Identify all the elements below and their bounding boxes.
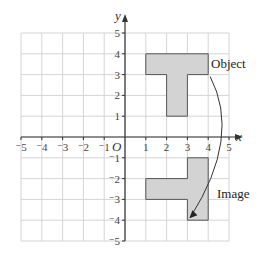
axes xyxy=(21,14,243,241)
x-tick-label: 5 xyxy=(226,141,232,153)
y-axis-arrow-icon xyxy=(122,14,128,22)
y-tick-label: ⁻4 xyxy=(109,214,121,226)
object-shape xyxy=(146,54,208,116)
y-tick-label: ⁻3 xyxy=(109,193,121,205)
x-tick-label: 4 xyxy=(205,141,211,153)
coordinate-grid-diagram: ⁻5⁻4⁻3⁻2⁻11234554321⁻1⁻2⁻3⁻4⁻5 Object Im… xyxy=(0,0,265,259)
y-tick-label: 3 xyxy=(115,69,121,81)
x-tick-label: ⁻2 xyxy=(78,141,89,153)
y-tick-label: 1 xyxy=(115,110,121,122)
y-tick-label: ⁻5 xyxy=(109,235,121,247)
x-tick-label: 1 xyxy=(143,141,149,153)
x-axis-label: x xyxy=(235,129,242,144)
origin-label: O xyxy=(112,139,122,154)
x-tick-label: 3 xyxy=(185,141,191,153)
y-tick-label: 5 xyxy=(115,27,121,39)
y-axis-label: y xyxy=(113,8,121,23)
x-tick-label: 2 xyxy=(164,141,170,153)
image-label: Image xyxy=(217,186,250,201)
x-tick-label: ⁻5 xyxy=(15,141,27,153)
y-tick-label: ⁻2 xyxy=(109,173,120,185)
image-shape xyxy=(146,158,208,220)
x-tick-label: ⁻3 xyxy=(57,141,69,153)
y-tick-label: 2 xyxy=(115,89,121,101)
y-tick-label: 4 xyxy=(115,48,121,60)
object-label: Object xyxy=(211,56,246,71)
x-tick-label: ⁻4 xyxy=(36,141,48,153)
